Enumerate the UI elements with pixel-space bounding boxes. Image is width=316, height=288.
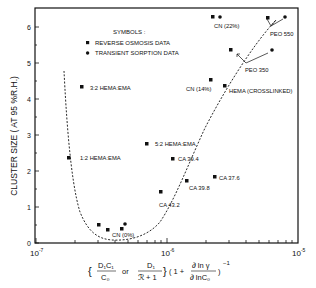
data-point-square [211,15,215,19]
formula-paren-open: ( 1 + [169,267,185,276]
data-point-square [120,227,124,231]
label-peo-550: PEO 550 [270,31,294,37]
y-tick-labels: 0 1 2 3 4 5 6 [27,24,31,247]
y-tick-label: 5 [27,60,31,67]
formula-paren-close: ) [218,267,221,276]
data-point-square [266,16,270,20]
cluster-size-chart: 0 1 2 3 4 5 6 CLUSTER SIZE ( AT 95 %R.H.… [0,0,316,288]
label-peo-350: PEO 350 [245,67,269,73]
label-cn-22: CN (22%) [214,23,240,29]
label-5-2-hema-ema: 5:2 HEMA:EMA [155,141,196,147]
data-point-square [209,78,213,82]
square-marker-icon [86,41,89,44]
y-axis-label: CLUSTER SIZE ( AT 95 %R.H.) [9,76,19,196]
data-point-circle [218,15,222,19]
label-hema-crosslinked: HEMA (CROSSLINKED) [229,88,293,94]
y-tick-label: 4 [27,96,31,103]
formula-brace-open: { [88,265,92,277]
y-tick-label: 2 [27,168,31,175]
formula-frac1-den: C₀ [101,273,110,282]
x-tick-labels: 10-7 10-6 10-5 [30,247,306,258]
label-ca-43-2: CA 43.2 [159,202,180,208]
legend-title: SYMBOLS : [113,29,146,35]
data-point-square [159,190,163,194]
formula-exponent: −1 [223,260,231,266]
legend-circle-label: TRANSIENT SORPTION DATA [95,50,179,56]
formula-frac3-num: ∂ ln γ [192,261,210,270]
y-tick-label: 1 [27,204,31,211]
data-point-square [145,142,149,146]
formula-frac2-den: ℛ + 1 [138,273,157,282]
y-tick-label: 6 [27,24,31,31]
data-point-square [185,179,189,183]
x-axis [36,238,292,243]
reverse-osmosis-points [67,15,270,232]
x-axis-label: { D₁C₁ C₀ or D₁ ℛ + 1 } ( 1 + ∂ ln γ ∂ l… [88,260,231,282]
x-tick-label: 10-6 [161,247,175,258]
label-1-2-hema-ema: 1:2 HEMA:EMA [80,155,121,161]
y-tick-label: 0 [27,240,31,247]
data-point-square [223,84,227,88]
label-3-2-hema-ema: 3:2 HEMA:EMA [90,85,131,91]
data-point-circle [270,48,274,52]
formula-or: or [122,267,129,276]
formula-frac3-den: ∂ lnC₀ [190,273,210,282]
formula-frac1-num: D₁C₁ [98,261,114,270]
label-ca-39-8: CA 39.8 [189,185,210,191]
label-cn-14: CN (14%) [186,86,212,92]
y-tick-label: 3 [27,132,31,139]
formula-frac2-num: D₁ [147,261,155,270]
data-point-square [80,85,84,89]
label-ca-39-4: CA 39.4 [178,156,199,162]
data-point-circle [123,222,127,226]
legend-square-label: REVERSE OSMOSIS DATA [95,40,170,46]
data-point-square [171,157,175,161]
data-point-square [106,228,110,232]
x-tick-label: 10-7 [30,247,44,258]
label-cn-0: CN (0%) [112,232,134,238]
data-point-square [213,175,217,179]
data-point-circle [283,15,287,19]
transient-sorption-points [123,15,287,226]
formula-brace-close: } [163,265,167,277]
data-point-square [229,48,233,52]
data-point-square [67,156,71,160]
circle-marker-icon [86,51,89,54]
legend: SYMBOLS : REVERSE OSMOSIS DATA TRANSIENT… [86,29,179,56]
label-ca-37-6: CA 37.6 [219,175,240,181]
data-point-square [97,223,101,227]
peo-arrows [237,19,283,63]
x-tick-label: 10-5 [292,247,306,258]
